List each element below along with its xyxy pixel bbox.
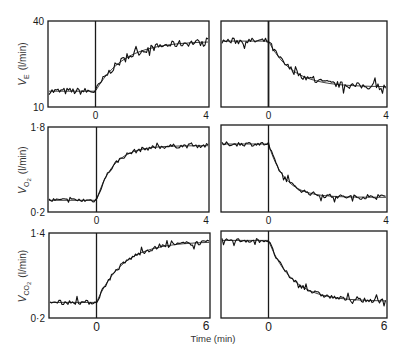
fit-curve <box>222 144 386 197</box>
panel-vco2-off: 0 6 <box>221 231 388 334</box>
raw-trace <box>222 38 386 93</box>
xtick-end: 6 <box>381 319 388 333</box>
xtick-end: 4 <box>383 215 389 226</box>
xtick-zero: 0 <box>266 215 272 226</box>
xtick-zero: 0 <box>94 215 100 226</box>
panel-vco2-on: 1·4 0·2 0 6 VCO2(l/min) <box>17 228 210 334</box>
raw-trace <box>222 238 386 306</box>
ytick-bottom: 0·2 <box>31 313 46 324</box>
raw-trace <box>49 143 208 202</box>
xtick-end: 4 <box>383 110 389 121</box>
figure: 40 10 0 4 VE(l/min) 0 4 1·8 0·2 0 4 VO2(… <box>0 0 402 351</box>
xtick-zero: 0 <box>93 320 100 334</box>
ytick-top: 1·4 <box>31 228 46 239</box>
panel-vo2-off: 0 4 <box>221 125 389 226</box>
panel-frame <box>221 231 387 318</box>
raw-trace <box>50 240 209 304</box>
raw-trace <box>49 38 208 95</box>
ylabel-vco2: VCO2(l/min) <box>17 250 32 302</box>
xtick-end: 4 <box>203 110 209 121</box>
x-axis-label: Time (min) <box>190 333 235 344</box>
xtick-zero: 0 <box>93 110 99 121</box>
ytick-top: 1·8 <box>31 122 46 133</box>
ytick-bottom: 0·2 <box>31 207 46 218</box>
panel-ve-on: 40 10 0 4 VE(l/min) <box>17 16 209 121</box>
panel-ve-off: 0 4 <box>221 21 389 121</box>
fit-curve <box>49 146 208 201</box>
xtick-zero: 0 <box>265 320 272 334</box>
raw-trace <box>222 142 386 202</box>
panel-frame <box>49 233 210 318</box>
panel-frame <box>48 21 209 107</box>
panel-vo2-on: 1·8 0·2 0 4 VO2(l/min) <box>17 122 209 226</box>
ylabel-vo2: VO2(l/min) <box>17 146 32 193</box>
fit-curve <box>49 42 208 91</box>
fit-curve <box>50 242 209 302</box>
ylabel-ve: VE(l/min) <box>17 42 30 85</box>
ytick-bottom: 10 <box>33 102 45 113</box>
xtick-end: 6 <box>203 319 210 333</box>
fit-curve <box>222 41 386 87</box>
fit-curve <box>222 240 386 301</box>
panel-frame <box>221 21 387 107</box>
ytick-top: 40 <box>33 16 45 27</box>
xtick-end: 4 <box>203 215 209 226</box>
xtick-zero: 0 <box>266 110 272 121</box>
